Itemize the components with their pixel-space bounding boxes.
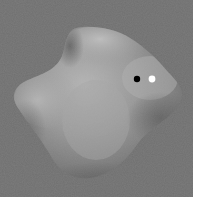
black-dot-marker: [134, 76, 140, 82]
blob-render: [0, 0, 193, 197]
image-frame: [0, 0, 193, 197]
white-dot-marker: [149, 76, 156, 83]
